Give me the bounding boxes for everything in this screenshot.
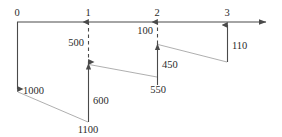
value-label-100: 100 [137, 25, 153, 36]
arrow-600-head [86, 63, 91, 69]
connector-lines [18, 45, 227, 123]
cash-flow-diagram: 0 1 2 3 1000 500 600 1100 100 450 550 11… [0, 0, 282, 137]
tick-label-2: 2 [154, 7, 159, 18]
value-label-1000: 1000 [23, 85, 44, 96]
connector-500-550 [89, 65, 157, 78]
value-label-500: 500 [68, 37, 84, 48]
tick-label-3: 3 [224, 7, 229, 18]
cash-flow-svg: 0 1 2 3 1000 500 600 1100 100 450 550 11… [0, 0, 282, 137]
value-label-110: 110 [232, 40, 247, 51]
tick-label-0: 0 [14, 7, 19, 18]
value-label-450: 450 [162, 59, 178, 70]
arrow-group-600 [86, 62, 91, 122]
value-label-550: 550 [150, 84, 166, 95]
connector-1000-1100 [18, 92, 88, 122]
tick-label-1: 1 [85, 7, 90, 18]
arrow-group-450 [155, 43, 160, 85]
value-label-1100: 1100 [78, 124, 99, 135]
value-label-600: 600 [93, 95, 109, 106]
